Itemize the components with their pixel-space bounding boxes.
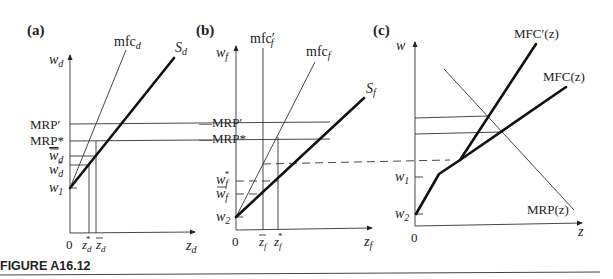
figure-caption: FIGURE A16.12	[0, 259, 91, 273]
mrp-star-label-b: —MRP*	[198, 131, 246, 146]
panel-a-y-axis-label: wd	[49, 52, 64, 69]
panel-b: (b) wf zf 0 mfc′f mfcf Sf —MRP′ —MRP* wf…	[196, 22, 450, 251]
w2-label-b: w2	[216, 209, 230, 226]
mfc-z-curve	[416, 87, 566, 214]
z-bar-f-label: zf	[258, 234, 268, 251]
mrp-prime-label-b: —MRP′	[198, 115, 242, 130]
s-f-curve	[236, 98, 364, 217]
panel-b-tag: (b)	[196, 22, 214, 39]
link-dashed-line	[263, 160, 450, 164]
panel-c-origin: 0	[411, 230, 418, 245]
mfc-prime-f-label: mfc′f	[250, 31, 275, 48]
panel-a-x-axis-label: zd	[185, 238, 197, 255]
panel-c-x-axis-label: z	[577, 224, 584, 239]
mfc-z-label: MFC(z)	[543, 69, 585, 84]
z-star-f-label: zf*	[273, 231, 283, 251]
mrp-z-curve	[444, 69, 574, 210]
s-d-label: Sd	[175, 40, 188, 57]
panel-b-origin: 0	[232, 234, 239, 249]
mfc-prime-z-curve	[460, 44, 536, 160]
panel-a: (a) wd zd 0 mfcd Sd MRP′ MRP* wd wd* w1 …	[27, 22, 330, 255]
mfc-prime-z-label: MFC′(z)	[514, 26, 559, 41]
w1-label-c: w1	[395, 169, 409, 186]
w2-label-c: w2	[395, 206, 409, 223]
panel-c: (c) w z 0 MFC′(z) MFC(z) MRP(z) w1 w2	[373, 22, 585, 245]
panel-b-y-axis-label: wf	[216, 45, 229, 62]
mfc-f-label: mfcf	[306, 44, 332, 61]
s-f-label: Sf	[366, 81, 377, 98]
panel-a-origin: 0	[66, 237, 73, 252]
mrp-prime-line-c	[415, 116, 488, 118]
panel-b-x-axis	[236, 228, 372, 230]
panel-a-tag: (a)	[27, 22, 45, 39]
mfc-d-curve	[70, 50, 126, 188]
mrp-star-label-a: MRP*	[30, 133, 64, 148]
panel-b-x-axis-label: zf	[363, 234, 373, 251]
z-star-d-label: zd*	[81, 234, 92, 254]
w1-label-a: w1	[49, 180, 63, 197]
panel-c-x-axis	[415, 223, 582, 226]
mrp-star-line-c	[415, 132, 502, 134]
mfc-d-label: mfcd	[114, 34, 142, 51]
mrp-prime-label-a: MRP′	[30, 117, 60, 132]
panel-c-y-axis-label: w	[396, 38, 406, 53]
figure-a16-12: (a) wd zd 0 mfcd Sd MRP′ MRP* wd wd* w1 …	[0, 0, 613, 279]
panel-c-tag: (c)	[373, 22, 390, 39]
z-bar-d-label: zd	[95, 237, 106, 254]
mrp-z-label: MRP(z)	[527, 202, 569, 217]
